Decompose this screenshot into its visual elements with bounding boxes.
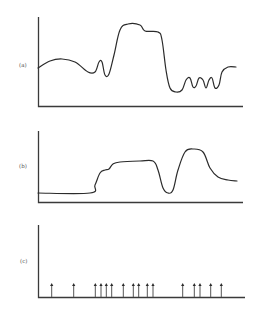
panel-b <box>38 131 243 203</box>
spike-arrow-icon <box>151 283 154 297</box>
panel-a-signal-curve <box>38 24 236 93</box>
spike-arrow-icon <box>209 283 212 297</box>
spike-arrow-icon <box>122 283 125 297</box>
spike-arrow-icon <box>198 283 201 297</box>
spike-arrow-icon <box>110 283 113 297</box>
panel-b-signal-curve <box>38 149 237 194</box>
panel-c-label: (c) <box>20 258 27 264</box>
spike-arrow-icon <box>94 283 97 297</box>
spike-arrow-icon <box>193 283 196 297</box>
figure: (a) (b) (c) <box>0 0 262 323</box>
panel-c-axes <box>39 225 246 298</box>
panel-a-label: (a) <box>19 62 27 68</box>
spike-arrow-icon <box>132 283 135 297</box>
panel-b-axes <box>39 131 244 203</box>
spike-arrow-icon <box>72 283 75 297</box>
figure-canvas <box>0 0 262 323</box>
panel-a <box>38 17 243 107</box>
spike-arrow-icon <box>50 283 53 297</box>
spike-arrow-icon <box>220 283 223 297</box>
panel-b-label: (b) <box>19 163 27 169</box>
spike-arrow-icon <box>146 283 149 297</box>
spike-arrow-icon <box>181 283 184 297</box>
panel-c <box>39 225 246 298</box>
panel-a-axes <box>39 17 244 107</box>
spike-arrow-icon <box>99 283 102 297</box>
spike-arrow-icon <box>137 283 140 297</box>
spike-arrow-icon <box>105 283 108 297</box>
panel-c-spike-arrows <box>50 283 223 297</box>
